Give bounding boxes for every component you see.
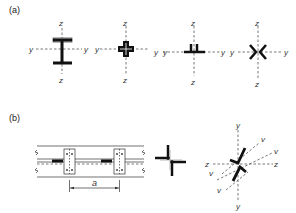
diagram-canvas: (a) (b) z z y y z z y y y z z y: [0, 0, 296, 213]
v-axis-label-3: v: [209, 169, 214, 178]
z-axis-label-left: z: [204, 160, 209, 169]
y-axis-label-bottom: y: [235, 202, 241, 211]
y-axis-label-right: y: [220, 48, 226, 57]
z-axis-label-bottom: z: [122, 76, 127, 85]
z-axis-label-bottom: z: [254, 80, 259, 89]
v-axis-label-1: v: [261, 135, 266, 144]
y-axis-label-left: y: [28, 45, 34, 54]
built-up-member-elevation: a: [35, 146, 145, 192]
y-axis-label-a: y: [153, 48, 159, 57]
y-axis-label-right: y: [83, 45, 89, 54]
y-axis-label-left: y: [229, 48, 235, 57]
z-axis-label-right: z: [273, 160, 278, 169]
z-axis-label-top: z: [58, 19, 63, 28]
z-axis-label-top: z: [122, 19, 127, 28]
offset-angles-section: [155, 145, 186, 176]
star-axes-section: y y z z v v v v: [204, 121, 279, 211]
cruciform-section: z z y: [94, 19, 148, 85]
panel-a-label: (a): [9, 5, 20, 15]
v-axis-label-2: v: [274, 147, 279, 156]
y-axis-label-left: y: [94, 45, 100, 54]
v-axis-label-4: v: [217, 186, 222, 195]
panel-b-label: (b): [9, 113, 20, 123]
star-angles-section: y z z y: [229, 19, 289, 89]
y-axis-label-right: y: [283, 48, 289, 57]
spacing-label: a: [92, 178, 97, 188]
z-axis-label-top: z: [254, 19, 259, 28]
y-axis-label-top: y: [235, 121, 241, 130]
i-section: z z y y: [28, 19, 89, 85]
z-axis-label-bottom: z: [58, 76, 63, 85]
z-axis-label-bottom: z: [190, 78, 195, 87]
z-axis-label-top: z: [190, 19, 195, 28]
back-to-back-angles-section: y y z z y: [153, 19, 226, 87]
y-axis-label-left: y: [162, 48, 168, 57]
